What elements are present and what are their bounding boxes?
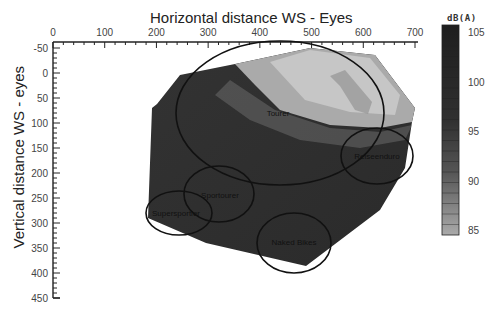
y-axis-ticks	[53, 48, 60, 298]
y-tick-label: 400	[22, 268, 48, 279]
y-tick-label: 450	[22, 293, 48, 304]
y-tick-label: 100	[22, 118, 48, 129]
x-tick-label: 300	[200, 27, 217, 38]
x-tick-label: 200	[148, 27, 165, 38]
colorbar-tick-label: 90	[468, 175, 479, 186]
y-tick-label: 350	[22, 243, 48, 254]
chart-title: Horizontal distance WS - Eyes	[150, 9, 353, 26]
x-tick-label: 500	[303, 27, 320, 38]
y-tick-label: 50	[22, 93, 48, 104]
y-tick-label: 200	[22, 168, 48, 179]
colorbar-tick-label: 85	[468, 225, 479, 236]
colorbar-unit-label: dB(A)	[447, 13, 477, 23]
y-tick-label: 250	[22, 193, 48, 204]
y-tick-label: 150	[22, 143, 48, 154]
chart-canvas	[0, 0, 492, 312]
y-tick-label: 300	[22, 218, 48, 229]
x-tick-label: 100	[96, 27, 113, 38]
x-tick-label: 0	[50, 27, 56, 38]
y-tick-label: 0	[22, 68, 48, 79]
label-naked-bikes: Naked Bikes	[272, 238, 317, 247]
colorbar	[442, 25, 459, 235]
label-supersportler: Supersportler	[152, 209, 200, 218]
label-sportourer: Sportourer	[201, 191, 239, 200]
x-tick-label: 600	[355, 27, 372, 38]
colorbar-tick-label: 95	[468, 126, 479, 137]
y-tick-label: -50	[22, 43, 48, 54]
colorbar-tick-label: 105	[468, 27, 485, 38]
x-axis-ticks	[53, 42, 415, 48]
label-tourer: Tourer	[267, 109, 290, 118]
label-reiseenduro: Reiseenduro	[354, 152, 399, 161]
x-tick-label: 400	[252, 27, 269, 38]
x-tick-label: 700	[407, 27, 424, 38]
colorbar-tick-label: 100	[468, 76, 485, 87]
